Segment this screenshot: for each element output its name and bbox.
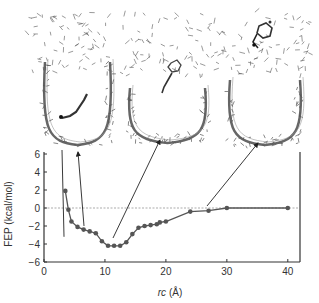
solvent-molecule	[85, 24, 88, 26]
y-tick-label: −2	[29, 221, 41, 232]
data-point	[63, 189, 68, 194]
solvent-molecule	[147, 56, 151, 59]
ligand-ring	[257, 23, 272, 38]
solvent-molecule	[74, 14, 77, 16]
solvent-molecule	[135, 51, 138, 56]
solvent-molecule	[38, 62, 42, 63]
pore-atom-bond	[64, 138, 65, 141]
data-point	[286, 206, 291, 211]
pore-atom-bond	[48, 79, 49, 81]
pore-wall-inner	[47, 59, 114, 142]
solvent-molecule	[77, 23, 82, 24]
y-axis-label: FEP (kcal/mol)	[3, 181, 14, 246]
pore-atom-bond	[226, 139, 229, 141]
solvent-molecule	[75, 43, 79, 46]
solvent-molecule	[37, 13, 41, 16]
solvent-molecule	[135, 39, 139, 42]
solvent-molecule	[98, 32, 100, 35]
solvent-molecule	[124, 11, 125, 17]
solvent-molecule	[298, 66, 299, 71]
solvent-molecule	[308, 53, 312, 55]
solvent-molecule	[221, 50, 226, 51]
pore-atom-bond	[246, 146, 247, 149]
solvent-molecule	[81, 46, 84, 48]
solvent-molecule	[185, 55, 188, 59]
solvent-molecule	[135, 12, 136, 17]
solvent-molecule	[126, 74, 130, 76]
solvent-molecule	[106, 57, 110, 58]
solvent-molecule	[131, 38, 132, 41]
solvent-molecule	[83, 34, 87, 36]
solvent-molecule	[217, 31, 220, 34]
solvent-molecule	[34, 26, 38, 27]
y-tick-label: −6	[29, 257, 41, 268]
solvent-molecule	[200, 64, 205, 66]
solvent-molecule	[33, 34, 35, 36]
solvent-molecule	[274, 21, 275, 26]
data-point	[124, 240, 129, 245]
solvent-molecule	[200, 74, 201, 78]
solvent-molecule	[248, 48, 250, 54]
left-structure	[25, 12, 116, 146]
solvent-molecule	[170, 45, 174, 46]
data-point	[158, 220, 163, 225]
pore-atom-bond	[49, 119, 53, 121]
solvent-molecule	[285, 13, 288, 15]
data-point	[118, 244, 123, 249]
solvent-molecule	[158, 18, 160, 23]
data-point	[75, 225, 80, 230]
solvent-molecule	[93, 44, 94, 49]
solvent-molecule	[196, 61, 198, 65]
data-point	[142, 224, 147, 229]
data-point	[164, 219, 169, 224]
solvent-molecule	[202, 74, 203, 77]
solvent-molecule	[141, 60, 145, 61]
solvent-molecule	[189, 52, 192, 54]
annotation-arrow	[207, 143, 258, 206]
pore-atom-bond	[46, 70, 49, 74]
solvent-molecule	[248, 62, 253, 63]
solvent-molecule	[266, 71, 271, 72]
fep-chart: 0102030406420−2−4−6 FEP (kcal/mol) rc(Å)	[0, 0, 319, 303]
y-tick-label: 6	[34, 149, 40, 160]
solvent-molecule	[46, 58, 47, 62]
solvent-molecule	[277, 60, 278, 65]
solvent-molecule	[209, 23, 212, 24]
pore-atom-bond	[53, 143, 58, 144]
x-tick-label: 40	[282, 266, 294, 277]
pore-atom-bond	[48, 111, 52, 114]
middle-structure	[120, 11, 218, 146]
solvent-molecule	[189, 28, 193, 29]
solvent-molecule	[67, 27, 69, 29]
solvent-molecule	[302, 20, 304, 23]
y-tick-label: −4	[29, 239, 41, 250]
solvent-molecule	[188, 56, 192, 58]
pore-atom-bond	[296, 101, 297, 105]
solvent-molecule	[233, 57, 235, 61]
pore-atom-bond	[109, 136, 110, 138]
data-point	[206, 208, 211, 213]
solvent-molecule	[187, 20, 189, 24]
solvent-molecule	[44, 42, 45, 46]
data-point	[100, 239, 105, 244]
solvent-molecule	[175, 13, 179, 17]
data-point	[148, 223, 153, 228]
solvent-molecule	[239, 52, 245, 53]
solvent-molecule	[197, 29, 202, 31]
solvent-molecule	[92, 63, 96, 65]
solvent-molecule	[52, 71, 57, 73]
pore-atom-bond	[111, 109, 115, 111]
annotation-arrow	[62, 150, 64, 237]
solvent-molecule	[293, 16, 294, 21]
solvent-molecule	[31, 17, 37, 18]
solvent-molecule	[162, 52, 163, 56]
solvent-molecule	[83, 68, 87, 69]
solvent-molecule	[222, 32, 225, 33]
solvent-molecule	[307, 43, 309, 49]
solvent-molecule	[142, 39, 144, 43]
solvent-molecule	[37, 59, 41, 60]
pore-atom-bond	[298, 138, 299, 142]
ligand-molecule	[62, 94, 87, 118]
solvent-molecule	[90, 47, 93, 50]
solvent-molecule	[308, 22, 311, 23]
